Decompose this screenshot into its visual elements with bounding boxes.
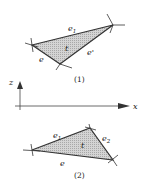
triangle-diagram: e1 t e' e (1) z x e1 t e2 e (2): [0, 0, 148, 185]
label-e: e: [39, 55, 44, 64]
label-e1: e1: [53, 131, 61, 141]
label-e1: e1: [68, 24, 76, 34]
label-e-prime: e': [87, 48, 94, 57]
x-arrow-icon: [118, 103, 130, 109]
label-z: z: [8, 78, 14, 87]
panel-2: e1 t e2 e (2): [23, 124, 118, 180]
z-arrow-icon: [17, 81, 23, 89]
panel-1: e1 t e' e (1): [25, 14, 125, 84]
caption-1: (1): [74, 75, 85, 84]
label-e: e: [60, 159, 65, 168]
label-x: x: [133, 102, 138, 111]
triangle-2: [32, 128, 113, 160]
axes: z x: [8, 78, 138, 111]
label-e2: e2: [102, 134, 111, 144]
caption-2: (2): [74, 171, 85, 180]
